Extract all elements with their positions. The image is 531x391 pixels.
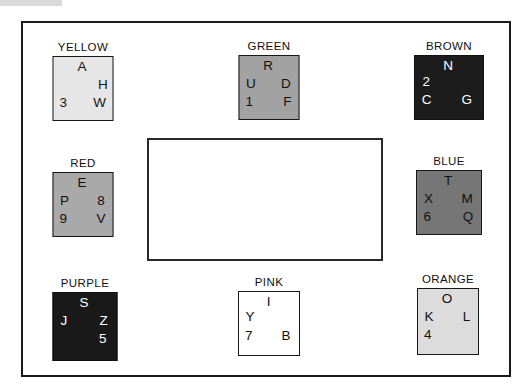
cell-brown-3: G [462, 93, 473, 107]
swatch-pink[interactable]: I Y 7 B [238, 291, 300, 356]
cell-blue-3: 6 [423, 210, 431, 224]
cell-orange-2: L [463, 310, 471, 324]
cell-brown-2: C [422, 93, 432, 107]
scan-artifact-strip [0, 0, 62, 6]
cell-purple-3: 5 [99, 332, 107, 346]
swatch-red[interactable]: E P 8 9 V [53, 172, 114, 237]
swatch-orange[interactable]: O K L 4 [417, 288, 479, 355]
cell-green-1: U [246, 77, 256, 91]
swatch-brown[interactable]: N 2 C G [414, 55, 484, 120]
cell-orange-1: K [425, 310, 434, 324]
group-label-orange: ORANGE [405, 273, 491, 286]
group-label-yellow: YELLOW [43, 41, 123, 54]
diagram-canvas: YELLOW A H 3 W GREEN R U D 1 F BROWN N 2… [0, 0, 531, 391]
cell-brown-0: N [443, 59, 453, 73]
cell-pink-1: Y [246, 310, 255, 324]
cell-red-2: 8 [97, 194, 105, 208]
cell-yellow-1: H [98, 78, 108, 92]
empty-center-rectangle [147, 138, 383, 261]
cell-green-0: R [263, 59, 273, 73]
cell-blue-2: M [461, 192, 472, 206]
cell-yellow-3: W [93, 96, 106, 110]
group-label-green: GREEN [229, 40, 309, 53]
cell-purple-2: Z [99, 314, 107, 328]
swatch-purple[interactable]: S J Z 5 [53, 292, 118, 361]
cell-purple-0: S [80, 296, 89, 310]
swatch-yellow[interactable]: A H 3 W [53, 56, 114, 121]
cell-blue-4: Q [463, 210, 474, 224]
cell-brown-1: 2 [422, 75, 430, 89]
group-label-pink: PINK [230, 276, 308, 289]
swatch-blue[interactable]: T X M 6 Q [416, 170, 482, 235]
cell-red-1: P [60, 194, 69, 208]
swatch-green[interactable]: R U D 1 F [239, 55, 300, 120]
cell-green-3: 1 [245, 95, 253, 109]
cell-blue-1: X [424, 192, 433, 206]
cell-orange-0: O [442, 292, 453, 306]
cell-green-2: D [281, 77, 291, 91]
group-label-blue: BLUE [409, 155, 489, 168]
cell-yellow-0: A [78, 60, 87, 74]
group-label-red: RED [43, 157, 123, 170]
cell-pink-3: B [282, 329, 291, 343]
cell-red-3: 9 [59, 212, 67, 226]
cell-pink-2: 7 [245, 329, 253, 343]
cell-yellow-2: 3 [59, 96, 67, 110]
cell-red-4: V [96, 212, 105, 226]
cell-purple-1: J [60, 314, 67, 328]
cell-green-4: F [283, 95, 291, 109]
cell-red-0: E [78, 176, 87, 190]
group-label-brown: BROWN [409, 40, 489, 53]
group-label-purple: PURPLE [43, 277, 127, 290]
cell-blue-0: T [444, 174, 452, 188]
cell-pink-0: I [267, 295, 271, 309]
cell-orange-3: 4 [424, 328, 432, 342]
